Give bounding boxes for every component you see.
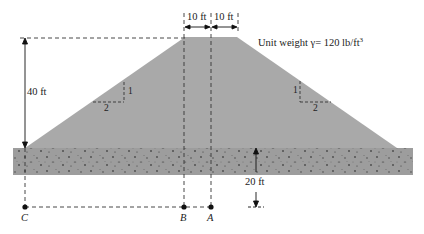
point-b-label: B xyxy=(180,213,186,224)
right-slope-horizontal-label: 2 xyxy=(313,104,318,114)
point-c-label: C xyxy=(21,213,28,224)
point-b-marker xyxy=(181,204,186,209)
point-a-marker xyxy=(208,204,213,209)
unit-weight-text: Unit weight γ= 120 lb/ft xyxy=(258,37,360,48)
depth-label: 20 ft xyxy=(245,177,265,188)
point-c-marker xyxy=(22,204,27,209)
unit-weight-label: Unit weight γ= 120 lb/ft3 xyxy=(258,38,363,49)
left-slope-horizontal-label: 2 xyxy=(104,104,109,114)
top-width-right-label: 10 ft xyxy=(214,12,234,23)
point-a-label: A xyxy=(207,213,213,224)
right-slope-vertical-label: 1 xyxy=(293,86,298,96)
unit-weight-exponent: 3 xyxy=(360,36,364,44)
top-width-left-label: 10 ft xyxy=(187,12,207,23)
height-label: 40 ft xyxy=(27,87,47,98)
left-slope-vertical-label: 1 xyxy=(128,87,133,97)
soil-layer xyxy=(13,148,413,175)
